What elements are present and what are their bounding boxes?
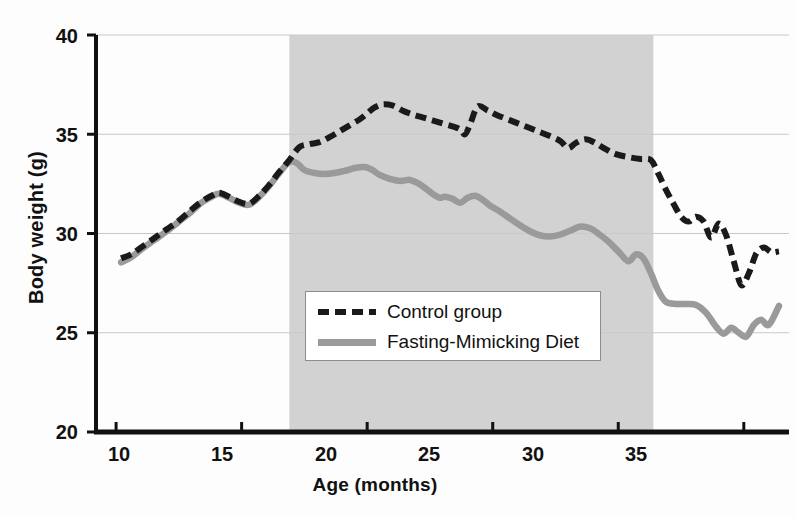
legend-item-control-group: Control group (318, 297, 502, 327)
figure-canvas: Body weight (g) Age (months) 40 35 30 25… (0, 0, 795, 518)
solid-line-swatch-icon (318, 339, 376, 346)
dashed-line-swatch-icon (318, 309, 376, 315)
legend-item-fasting-mimicking-diet: Fasting-Mimicking Diet (318, 327, 579, 357)
chart-legend: Control group Fasting-Mimicking Diet (305, 291, 601, 361)
chart-plot-area (0, 0, 795, 518)
legend-label-control-group: Control group (387, 301, 502, 323)
legend-label-fasting-mimicking-diet: Fasting-Mimicking Diet (387, 331, 579, 353)
